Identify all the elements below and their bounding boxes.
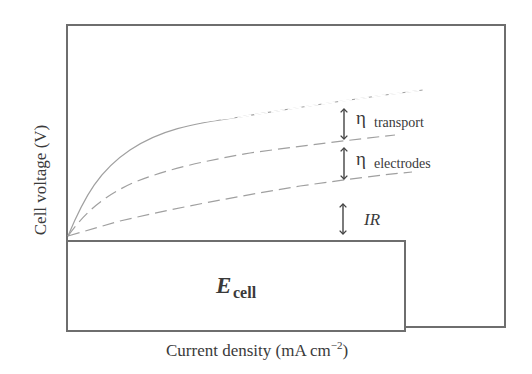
ecell-symbol: E	[215, 273, 231, 298]
ir-curve	[68, 172, 412, 236]
x-axis-label-main: Current density (mA cm	[166, 341, 331, 360]
y-axis-label: Cell voltage (V)	[31, 125, 50, 235]
electrode-overpotential-curve	[68, 135, 395, 236]
eta-transport-symbol: η	[356, 107, 366, 128]
eta-transport-subscript: transport	[374, 115, 424, 130]
polarization-diagram: η transport η electrodes IR E cell Cell …	[0, 0, 532, 374]
eta-electrodes-subscript: electrodes	[374, 156, 431, 171]
x-axis-label-close: )	[343, 341, 349, 360]
ir-label: IR	[363, 210, 381, 229]
eta-electrodes-symbol: η	[356, 148, 366, 169]
x-axis-label-superscript: −2	[331, 339, 343, 351]
x-axis-label: Current density (mA cm−2)	[166, 339, 348, 360]
ecell-subscript: cell	[233, 284, 257, 301]
